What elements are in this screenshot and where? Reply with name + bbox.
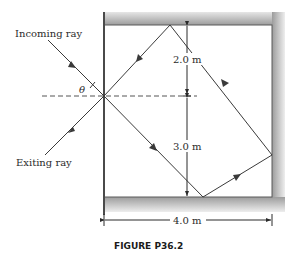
figure-caption: FIGURE P36.2 xyxy=(114,241,183,251)
bottom-mirror-shade xyxy=(105,197,285,212)
exiting-ray-label: Exiting ray xyxy=(16,157,72,168)
room-outline xyxy=(104,25,272,197)
mirror-room-diagram: 2.0 m 3.0 m 4.0 m Incoming ray Exiting r… xyxy=(0,0,290,255)
width-label: 4.0 m xyxy=(173,215,202,226)
incoming-ray-label: Incoming ray xyxy=(15,28,82,39)
mirror-walls xyxy=(104,12,285,212)
right-mirror-shade xyxy=(272,12,285,212)
exiting-ray-line xyxy=(45,96,104,155)
top-mirror-shade xyxy=(105,12,285,25)
theta-label: θ xyxy=(79,84,85,95)
upper-height-label: 2.0 m xyxy=(173,54,202,65)
lower-height-label: 3.0 m xyxy=(173,141,202,152)
incoming-ray-arrow-icon xyxy=(68,61,76,68)
